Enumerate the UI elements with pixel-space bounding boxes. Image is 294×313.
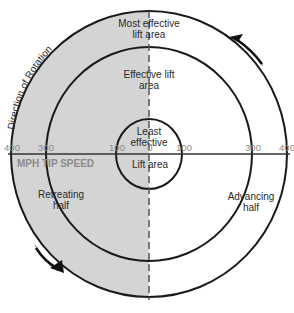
- advancing-half-label-2: half: [243, 202, 259, 213]
- lift-area-label: Lift area: [132, 159, 169, 170]
- tick-left-100: 100: [109, 142, 125, 153]
- least-effective-label-1: Least: [137, 126, 162, 137]
- rotation-arrow-top-right-icon: [229, 34, 263, 66]
- effective-lift-label-1: Effective lift: [124, 69, 175, 80]
- retreating-half-label-2: half: [53, 200, 69, 211]
- tick-right-100: 100: [176, 142, 192, 153]
- tick-right-400: 400: [279, 142, 294, 153]
- tick-center-0: 0: [147, 142, 152, 153]
- advancing-half-label-1: Advancing: [228, 191, 275, 202]
- effective-lift-label-2: area: [139, 80, 159, 91]
- most-effective-label-1: Most effective: [118, 18, 180, 29]
- retreating-half-label-1: Retreating: [38, 189, 84, 200]
- rotor-disc-diagram: Direction of Rotation Most effective lif…: [0, 0, 294, 313]
- tick-right-300: 300: [245, 142, 261, 153]
- tick-left-400: 400: [4, 142, 20, 153]
- mph-tip-speed-label: MPH TIP SPEED: [17, 158, 94, 169]
- tick-left-300: 300: [38, 142, 54, 153]
- most-effective-label-2: lift area: [133, 29, 166, 40]
